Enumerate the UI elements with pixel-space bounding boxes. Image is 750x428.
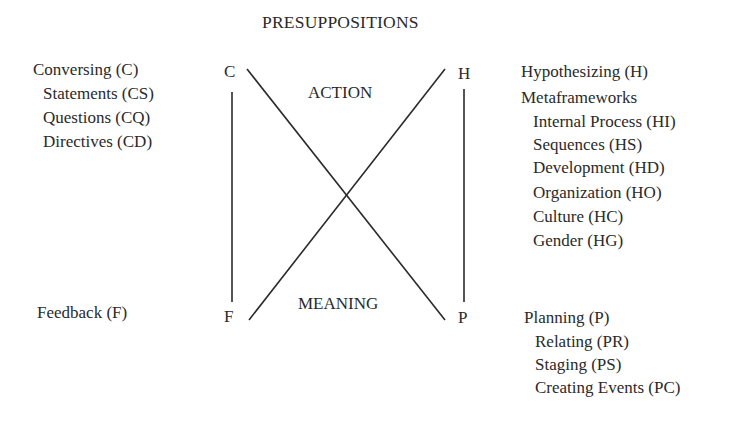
list-item-creating-events: Creating Events (PC)	[535, 378, 680, 398]
center-label-meaning: MEANING	[298, 294, 378, 314]
list-item-planning: Planning (P)	[524, 308, 609, 328]
corner-label-h: H	[458, 64, 470, 84]
list-item-statements: Statements (CS)	[43, 84, 154, 104]
list-item-metaframeworks: Metaframeworks	[521, 88, 637, 108]
list-item-staging: Staging (PS)	[535, 355, 621, 375]
list-item-internal-process: Internal Process (HI)	[533, 112, 676, 132]
list-item-directives: Directives (CD)	[43, 132, 152, 152]
list-item-organization: Organization (HO)	[533, 183, 662, 203]
list-item-relating: Relating (PR)	[535, 332, 629, 352]
list-item-gender: Gender (HG)	[533, 231, 623, 251]
list-item-sequences: Sequences (HS)	[533, 135, 642, 155]
list-item-feedback: Feedback (F)	[37, 303, 127, 323]
list-item-culture: Culture (HC)	[533, 207, 623, 227]
list-item-conversing: Conversing (C)	[33, 60, 138, 80]
center-label-action: ACTION	[308, 83, 372, 103]
corner-label-p: P	[458, 308, 467, 328]
list-item-questions: Questions (CQ)	[43, 108, 150, 128]
list-item-development: Development (HD)	[533, 158, 665, 178]
corner-label-f: F	[224, 307, 233, 327]
list-item-hypothesizing: Hypothesizing (H)	[521, 62, 648, 82]
corner-label-c: C	[224, 62, 235, 82]
